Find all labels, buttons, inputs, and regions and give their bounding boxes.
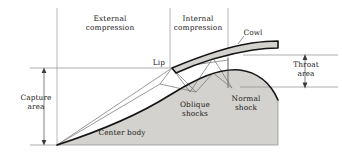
- internal-compression-line1: Internal: [183, 14, 214, 23]
- label-throat-area: Throat area: [284, 60, 328, 78]
- label-internal-compression: Internal compression: [160, 14, 236, 32]
- label-normal-shock: Normal shock: [222, 94, 270, 112]
- label-oblique-shocks: Oblique shocks: [168, 100, 222, 118]
- normal-shock-line2: shock: [235, 103, 257, 112]
- label-cowl: Cowl: [236, 28, 270, 37]
- capture-area-line2: area: [27, 102, 44, 111]
- normal-shock-line1: Normal: [232, 94, 261, 103]
- external-compression-line1: External: [94, 14, 127, 23]
- throat-area-line1: Throat: [293, 60, 319, 69]
- capture-area-line1: Capture: [20, 93, 51, 102]
- label-external-compression: External compression: [72, 14, 148, 32]
- label-center-body: Center body: [82, 128, 162, 137]
- label-lip: Lip: [147, 58, 171, 67]
- label-capture-area: Capture area: [8, 93, 64, 111]
- throat-area-line2: area: [297, 69, 314, 78]
- oblique-shocks-line2: shocks: [182, 109, 208, 118]
- oblique-shocks-line1: Oblique: [180, 100, 210, 109]
- cowl-body: [172, 41, 278, 73]
- oblique-shock-secondary-branch: [160, 68, 172, 84]
- internal-compression-line2: compression: [174, 23, 223, 32]
- inlet-diagram: External compression Internal compressio…: [0, 0, 342, 157]
- external-compression-line2: compression: [86, 23, 135, 32]
